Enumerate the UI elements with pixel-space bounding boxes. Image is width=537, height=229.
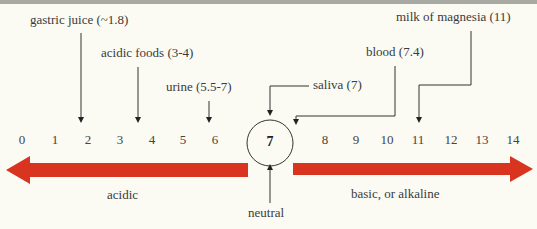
saliva-pointer: [270, 86, 309, 111]
blood-pointer: [296, 66, 395, 120]
tick-10: 10: [381, 132, 394, 148]
tick-9: 9: [353, 132, 360, 148]
label-milk-of-magnesia: milk of magnesia (11): [396, 9, 511, 25]
tick-8: 8: [322, 132, 329, 148]
basic-arrow-icon: [293, 156, 533, 182]
label-blood: blood (7.4): [366, 44, 424, 60]
tick-12: 12: [445, 132, 458, 148]
label-gastric-juice: gastric juice (~1.8): [30, 12, 128, 28]
tick-14: 14: [507, 132, 520, 148]
tick-2: 2: [85, 132, 92, 148]
basic-label: basic, or alkaline: [351, 186, 439, 202]
tick-7-neutral: 7: [267, 134, 274, 150]
tick-4: 4: [149, 132, 156, 148]
ph-diagram-graphics: [0, 0, 537, 229]
tick-11: 11: [412, 132, 425, 148]
tick-6: 6: [212, 132, 219, 148]
acidic-label: acidic: [107, 187, 138, 203]
label-acidic-foods: acidic foods (3-4): [101, 45, 193, 61]
label-saliva: saliva (7): [313, 77, 362, 93]
neutral-label: neutral: [248, 205, 284, 221]
tick-5: 5: [180, 132, 187, 148]
label-urine: urine (5.5-7): [166, 79, 232, 95]
tick-1: 1: [52, 132, 59, 148]
arrowhead-icon: [78, 117, 84, 123]
tick-13: 13: [476, 132, 489, 148]
acidic-arrow-icon: [6, 156, 248, 184]
milk-of-magnesia-pointer: [419, 31, 471, 118]
tick-3: 3: [117, 132, 124, 148]
tick-0: 0: [19, 132, 26, 148]
